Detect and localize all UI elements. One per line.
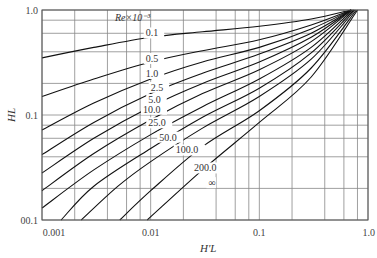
curve-label: 2.5 (151, 82, 164, 93)
x-tick-label: 0.01 (142, 227, 160, 238)
y-axis-title: HL (5, 108, 17, 123)
y-tick-label: 00.1 (21, 215, 39, 226)
y-tick-labels: 00.10.11.0 (21, 5, 39, 226)
chart: 0.0010.010.11.0 00.10.11.0 0.10.51.02.55… (0, 0, 377, 258)
x-axis-title: H'L (199, 242, 216, 254)
curve-label: 10.0 (143, 104, 161, 115)
curve-label: 50.0 (159, 132, 177, 143)
x-tick-labels: 0.0010.010.11.0 (43, 227, 375, 238)
curve-re-0.1 (42, 10, 351, 58)
curve-re-1.0 (42, 10, 351, 130)
y-tick-label: 0.1 (26, 110, 39, 121)
x-tick-label: 1.0 (363, 227, 376, 238)
x-tick-label: 0.1 (253, 227, 266, 238)
x-tick-label: 0.001 (43, 227, 66, 238)
curve-label: ∞ (208, 177, 215, 188)
curve-label: 25.0 (148, 117, 166, 128)
curve-label: 1.0 (146, 68, 159, 79)
curve-label: 0.5 (146, 53, 159, 64)
y-tick-label: 1.0 (26, 5, 39, 16)
curve-label: 0.1 (146, 27, 159, 38)
curve-label: 100.0 (176, 144, 199, 155)
legend-title: Re×10⁻³ (114, 12, 151, 23)
curve-label: 200.0 (194, 162, 217, 173)
